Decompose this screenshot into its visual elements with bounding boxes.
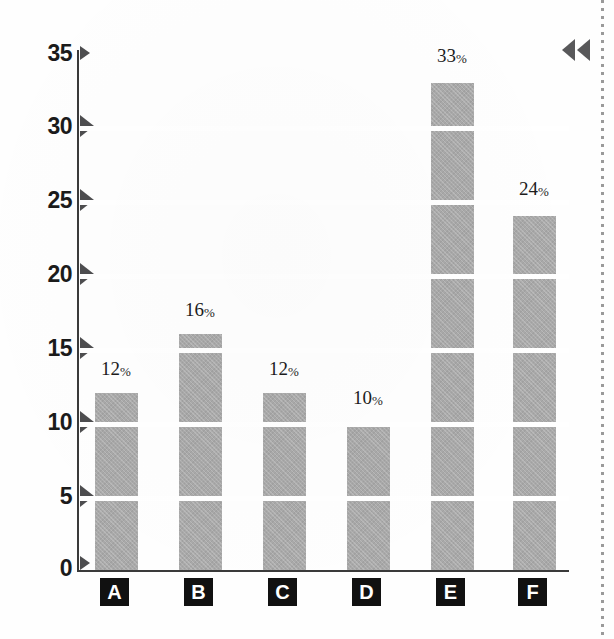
percent-sign-f: % — [538, 184, 549, 199]
x-axis-line — [77, 570, 569, 572]
y-axis-tick-label-30: 30 — [36, 115, 72, 138]
percent-sign-c: % — [288, 364, 299, 379]
y-axis-tick-label-0: 0 — [36, 557, 72, 580]
percent-sign-a: % — [120, 364, 131, 379]
gridline-10 — [79, 422, 569, 427]
bar-a — [95, 393, 138, 570]
percent-sign-b: % — [204, 305, 215, 320]
y-axis-tick-label-20: 20 — [36, 263, 72, 286]
gridline-30 — [79, 126, 569, 131]
y-axis-tick-label-10: 10 — [36, 411, 72, 434]
gridline-15 — [79, 348, 569, 353]
previous-button[interactable] — [562, 38, 602, 62]
bar-value-label-f: 24% — [499, 178, 569, 200]
double-triangle-left-icon-second — [577, 39, 590, 61]
bar-b — [179, 334, 222, 570]
double-triangle-left-icon — [562, 39, 575, 61]
bar-value-label-e: 33% — [417, 45, 487, 67]
percent-sign-e: % — [456, 51, 467, 66]
bar-value-label-c: 12% — [249, 358, 319, 380]
gridline-5 — [79, 496, 569, 501]
x-axis-label-e: E — [436, 578, 465, 606]
x-axis-label-c: C — [268, 578, 297, 606]
x-axis-label-f: F — [518, 578, 547, 606]
bar-chart: 35 30 25 20 15 10 5 0 12% 16% — [0, 0, 614, 639]
y-axis-tick-label-5: 5 — [36, 485, 72, 508]
y-axis-tick-label-35: 35 — [36, 42, 72, 65]
gridline-25 — [79, 200, 569, 205]
gridline-20 — [79, 274, 569, 279]
bar-value-label-b: 16% — [165, 299, 235, 321]
bar-value-label-a: 12% — [81, 358, 151, 380]
y-axis-tick-label-15: 15 — [36, 337, 72, 360]
bar-c — [263, 393, 306, 570]
y-axis-tick-label-25: 25 — [36, 189, 72, 212]
percent-sign-d: % — [372, 393, 383, 408]
bar-f — [513, 216, 556, 570]
x-axis-label-d: D — [352, 578, 381, 606]
page-edge-dotted-rule — [601, 0, 604, 639]
x-axis-label-a: A — [100, 578, 129, 606]
x-axis-label-b: B — [184, 578, 213, 606]
bar-value-label-d: 10% — [333, 387, 403, 409]
